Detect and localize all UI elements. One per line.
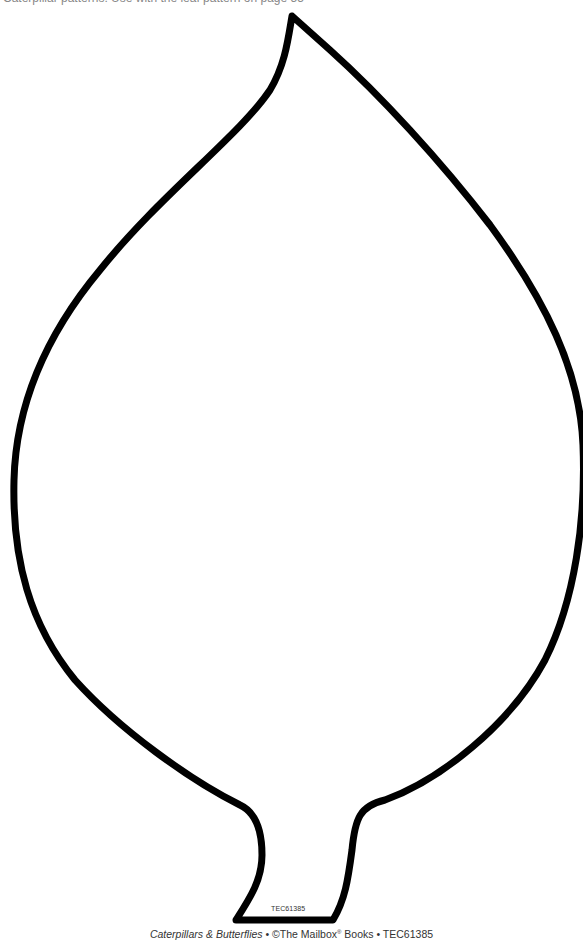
leaf-outline-pattern <box>0 0 583 943</box>
leaf-outline-path <box>14 16 583 920</box>
footer-product-code: Books • TEC61385 <box>341 928 433 940</box>
footer-credit: Caterpillars & Butterflies • ©The Mailbo… <box>0 928 583 940</box>
footer-publisher: • ©The Mailbox <box>263 928 337 940</box>
footer-book-title: Caterpillars & Butterflies <box>150 928 263 940</box>
stem-product-code: TEC61385 <box>271 905 305 912</box>
